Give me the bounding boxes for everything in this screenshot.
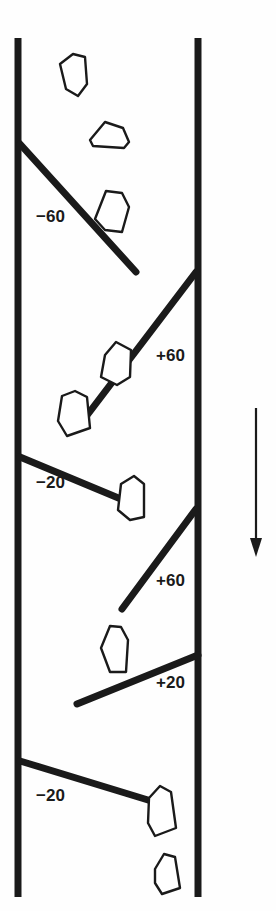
clast-outline-4 xyxy=(101,342,131,385)
angle-label-6: −20 xyxy=(36,786,65,805)
diagram-svg: −60 +60 −20 +60 +20 −20 xyxy=(0,0,276,911)
angle-label-2: +60 xyxy=(156,346,185,365)
structural-diagram-canvas: −60 +60 −20 +60 +20 −20 xyxy=(0,0,276,911)
angle-label-1: −60 xyxy=(36,207,65,226)
angle-label-5: +20 xyxy=(156,673,185,692)
angle-labels-group: −60 +60 −20 +60 +20 −20 xyxy=(36,207,185,805)
angle-label-4: +60 xyxy=(156,571,185,590)
clast-outline-7 xyxy=(101,626,128,672)
fracture-line-2 xyxy=(85,272,196,418)
clast-outline-5 xyxy=(58,391,90,436)
angle-label-3: −20 xyxy=(36,473,65,492)
clast-outlines-group xyxy=(58,54,180,894)
clast-outline-9 xyxy=(155,854,180,894)
fracture-lines-group xyxy=(20,144,198,800)
clast-outline-3 xyxy=(95,191,129,232)
clast-outline-2 xyxy=(90,122,129,148)
flow-arrow-head-icon xyxy=(250,538,262,557)
clast-outline-1 xyxy=(60,54,87,96)
clast-outline-8 xyxy=(148,786,176,836)
clast-outline-6 xyxy=(118,476,144,520)
fracture-line-4 xyxy=(122,509,196,609)
downward-flow-arrow xyxy=(250,408,262,557)
